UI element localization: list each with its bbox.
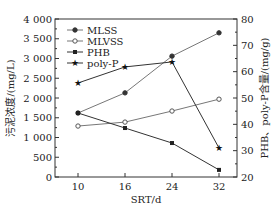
plot-frame xyxy=(55,19,237,177)
series-line-mlvss xyxy=(78,99,219,126)
marker-star: ★ xyxy=(121,62,129,72)
x-tick-label: 32 xyxy=(213,181,226,192)
legend-label-phb: PHB xyxy=(87,47,110,58)
right-tick-label: 70 xyxy=(241,40,254,51)
marker-star: ★ xyxy=(215,143,223,153)
left-tick-label: 2 500 xyxy=(23,73,52,84)
left-tick-label: 1 500 xyxy=(23,112,52,123)
marker-filled-square xyxy=(73,50,77,54)
right-tick-label: 60 xyxy=(241,66,254,77)
marker-filled-square xyxy=(76,111,80,115)
marker-open-circle xyxy=(217,97,221,101)
marker-filled-square xyxy=(123,126,127,130)
x-axis-title: SRT/d xyxy=(131,194,162,205)
right-axis-title: PHB、poly-P含量/(mg/g) xyxy=(258,37,270,158)
left-tick-label: 2 000 xyxy=(23,93,52,104)
right-tick-label: 20 xyxy=(241,172,254,183)
dual-axis-line-chart: 05001 0001 5002 0002 5003 0003 5004 0002… xyxy=(0,0,277,207)
marker-filled-square xyxy=(170,141,174,145)
legend-label-mlvss: MLVSS xyxy=(87,36,124,47)
legend-label-mlss: MLSS xyxy=(87,25,118,36)
marker-filled-circle xyxy=(217,31,221,35)
left-tick-label: 0 xyxy=(46,172,52,183)
left-tick-label: 1 000 xyxy=(23,132,52,143)
right-tick-label: 30 xyxy=(241,145,254,156)
marker-star: ★ xyxy=(71,58,79,68)
marker-open-circle xyxy=(73,39,77,43)
left-axis-title: 污泥浓度/(mg/L) xyxy=(4,59,16,136)
series-line-phb xyxy=(78,113,219,170)
marker-star: ★ xyxy=(74,78,82,88)
left-tick-label: 3 000 xyxy=(23,53,52,64)
marker-open-circle xyxy=(76,124,80,128)
x-tick-label: 10 xyxy=(72,181,85,192)
marker-star: ★ xyxy=(168,57,176,67)
left-tick-label: 3 500 xyxy=(23,33,52,44)
right-tick-label: 80 xyxy=(241,14,254,25)
x-tick-label: 16 xyxy=(119,181,132,192)
left-tick-label: 500 xyxy=(33,152,52,163)
legend-label-poly-p: poly-P xyxy=(87,58,119,69)
right-tick-label: 40 xyxy=(241,119,254,130)
marker-open-circle xyxy=(123,120,127,124)
left-tick-label: 4 000 xyxy=(23,14,52,25)
x-tick-label: 24 xyxy=(166,181,179,192)
marker-filled-square xyxy=(217,168,221,172)
marker-filled-circle xyxy=(73,28,77,32)
right-tick-label: 50 xyxy=(241,93,254,104)
marker-filled-circle xyxy=(123,91,127,95)
marker-open-circle xyxy=(170,109,174,113)
